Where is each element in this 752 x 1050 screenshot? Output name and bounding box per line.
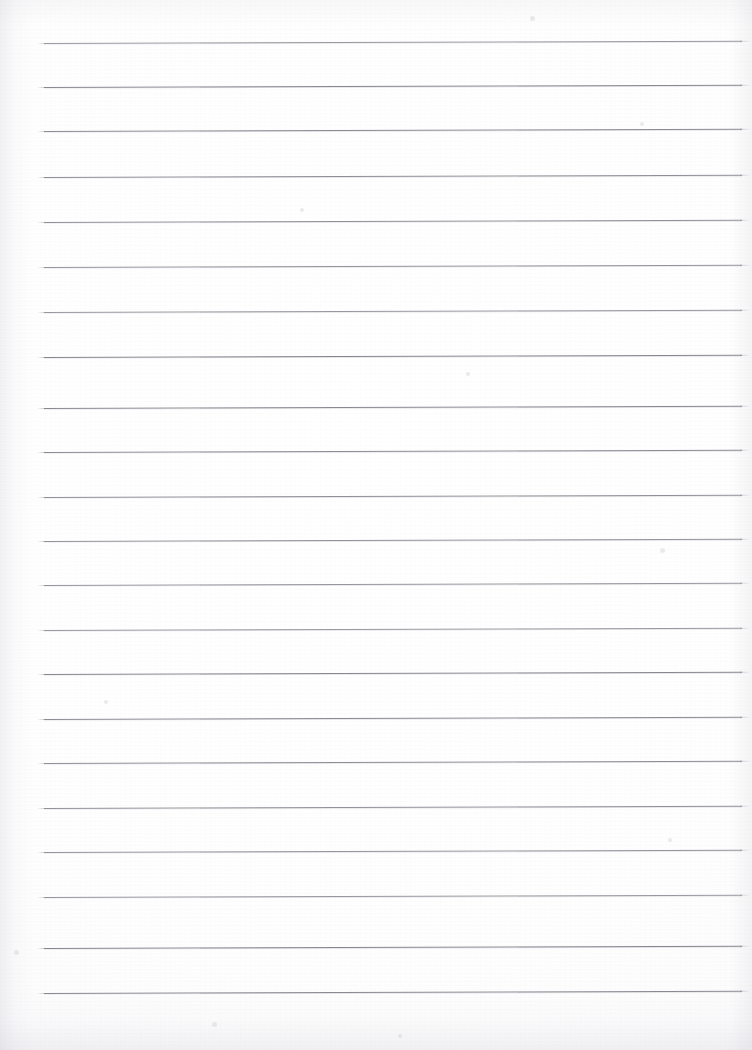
ruled-line[interactable] [44,991,742,994]
ruled-line[interactable] [44,895,742,898]
ruled-writing-area[interactable] [0,0,752,1050]
ruled-line[interactable] [44,310,742,313]
ruled-line[interactable] [44,717,742,720]
ruled-line[interactable] [44,265,742,268]
ruled-line[interactable] [44,539,742,542]
ruled-line[interactable] [44,450,742,453]
scanned-page [0,0,752,1050]
ruled-line[interactable] [44,761,742,764]
ruled-line[interactable] [44,406,742,409]
ruled-line[interactable] [44,806,742,809]
ruled-line[interactable] [44,946,742,949]
ruled-line[interactable] [44,41,742,44]
ruled-line[interactable] [44,672,742,675]
ruled-line[interactable] [44,220,742,223]
ruled-line[interactable] [44,628,742,631]
ruled-line[interactable] [44,495,742,498]
ruled-line[interactable] [44,85,742,88]
ruled-line[interactable] [44,850,742,853]
ruled-line[interactable] [44,175,742,178]
ruled-line[interactable] [44,355,742,358]
ruled-line[interactable] [44,129,742,132]
ruled-line[interactable] [44,583,742,586]
